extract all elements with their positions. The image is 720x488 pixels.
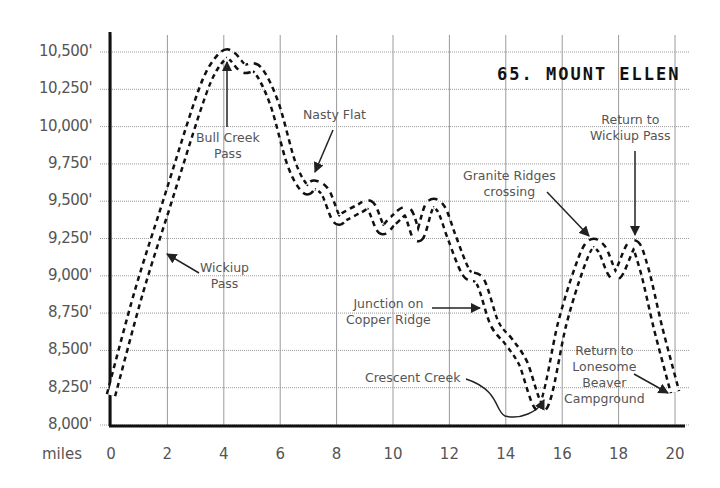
y-tick-label: 8,500' xyxy=(0,340,92,358)
y-tick-label: 9,500' xyxy=(0,191,92,209)
y-tick-label: 8,250' xyxy=(0,378,92,396)
arrow-nasty-flat-icon xyxy=(315,130,333,172)
annotation-crescent-creek: Crescent Creek xyxy=(365,370,460,386)
annotation-granite-ridges: Granite Ridges crossing xyxy=(463,168,556,200)
annotation-bull-creek-pass: Bull Creek Pass xyxy=(196,130,260,162)
annotation-junction-copper-ridge: Junction on Copper Ridge xyxy=(346,296,431,328)
x-tick-label: 18 xyxy=(604,445,634,463)
y-tick-label: 8,000' xyxy=(0,415,92,433)
x-tick-label: 20 xyxy=(660,445,690,463)
y-tick-label: 9,750' xyxy=(0,154,92,172)
x-tick-label: 0 xyxy=(96,445,126,463)
x-tick-label: 4 xyxy=(209,445,239,463)
x-tick-label: 10 xyxy=(378,445,408,463)
chart-title: 65. MOUNT ELLEN xyxy=(497,64,681,84)
x-tick-label: 2 xyxy=(152,445,182,463)
y-tick-label: 10,500' xyxy=(0,42,92,60)
y-tick-label: 8,750' xyxy=(0,303,92,321)
x-tick-label: 6 xyxy=(265,445,295,463)
y-tick-label: 9,000' xyxy=(0,266,92,284)
x-tick-label: 16 xyxy=(547,445,577,463)
arrow-wickiup-icon xyxy=(167,254,199,273)
annotation-nasty-flat: Nasty Flat xyxy=(303,107,366,123)
y-tick-label: 10,000' xyxy=(0,117,92,135)
annotation-wickiup-pass: Wickiup Pass xyxy=(200,260,249,292)
y-tick-label: 10,250' xyxy=(0,79,92,97)
x-tick-label: 12 xyxy=(434,445,464,463)
x-tick-label: 8 xyxy=(322,445,352,463)
x-tick-label: 14 xyxy=(491,445,521,463)
annotation-return-wickiup: Return to Wickiup Pass xyxy=(590,112,671,144)
elevation-chart: 8,000'8,250'8,500'8,750'9,000'9,250'9,50… xyxy=(0,0,720,488)
y-tick-label: 9,250' xyxy=(0,229,92,247)
annotation-return-lonesome-beaver: Return to Lonesome Beaver Campground xyxy=(564,343,645,407)
x-axis-unit-label: miles xyxy=(42,445,82,463)
